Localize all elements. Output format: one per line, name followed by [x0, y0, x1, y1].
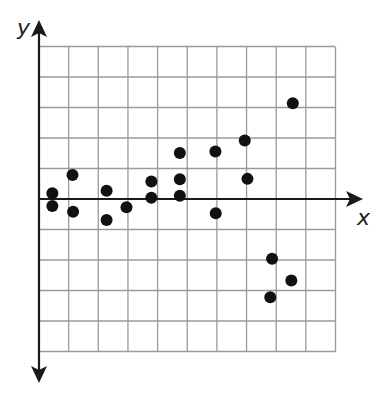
data-point	[145, 192, 157, 204]
data-point	[239, 134, 251, 146]
data-point	[174, 147, 186, 159]
data-point	[145, 176, 157, 188]
data-point	[285, 274, 297, 286]
data-point	[174, 190, 186, 202]
scatter-plot: x y	[0, 0, 387, 405]
data-point	[46, 187, 58, 199]
axes	[31, 20, 363, 383]
data-point	[67, 206, 79, 218]
data-point	[46, 200, 58, 212]
data-point	[101, 214, 113, 226]
data-point	[266, 253, 278, 265]
x-axis-label: x	[356, 205, 371, 230]
data-point	[209, 145, 221, 157]
data-point	[67, 169, 79, 181]
data-point	[264, 291, 276, 303]
data-point	[210, 207, 222, 219]
data-point	[101, 185, 113, 197]
data-point	[120, 201, 132, 213]
data-point	[241, 173, 253, 185]
data-point	[174, 173, 186, 185]
y-axis-label: y	[16, 15, 31, 40]
data-point	[287, 97, 299, 109]
data-points	[46, 97, 298, 303]
